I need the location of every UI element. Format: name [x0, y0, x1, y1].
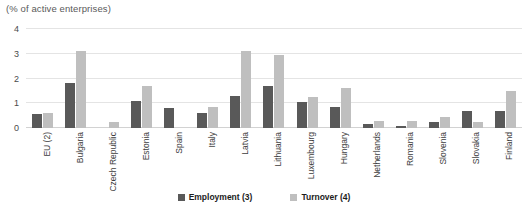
- x-axis-cell: Lithuania: [257, 130, 290, 188]
- bar-employment[interactable]: [396, 126, 406, 128]
- plot-area: [26, 29, 522, 128]
- y-axis-tick-label: 1: [14, 99, 19, 108]
- x-axis-tick-label: Bulgaria: [76, 132, 85, 163]
- y-axis-tick-label: 0: [14, 124, 19, 133]
- x-axis-tick-label: Lithuania: [274, 132, 283, 167]
- bar-group: [291, 29, 324, 128]
- bar-group: [125, 29, 158, 128]
- x-axis-cell: Czech Republic: [92, 130, 125, 188]
- x-axis-cell: Slovenia: [423, 130, 456, 188]
- legend-item[interactable]: Turnover (4): [290, 192, 350, 202]
- bar-group: [224, 29, 257, 128]
- x-axis: EU (2)BulgariaCzech RepublicEstoniaSpain…: [26, 130, 522, 188]
- bar-employment[interactable]: [32, 114, 42, 128]
- legend-swatch-icon: [290, 194, 297, 201]
- legend-item[interactable]: Employment (3): [178, 192, 253, 202]
- y-axis-tick-label: 3: [14, 49, 19, 58]
- bar-group: [456, 29, 489, 128]
- bar-turnover[interactable]: [208, 107, 218, 128]
- x-axis-tick-label: Latvia: [241, 132, 250, 155]
- bar-turnover[interactable]: [506, 91, 516, 128]
- x-axis-tick-label: Estonia: [142, 132, 151, 160]
- bar-employment[interactable]: [197, 113, 207, 128]
- chart-legend: Employment (3)Turnover (4): [0, 192, 528, 202]
- bars-layer: [26, 29, 522, 128]
- bar-turnover[interactable]: [341, 88, 351, 128]
- x-axis-tick-label: Spain: [175, 132, 184, 154]
- bar-employment[interactable]: [495, 111, 505, 128]
- bar-turnover[interactable]: [374, 121, 384, 128]
- bar-group: [423, 29, 456, 128]
- bar-turnover[interactable]: [76, 51, 86, 128]
- chart-container: (% of active enterprises) 01234 EU (2)Bu…: [0, 0, 528, 216]
- x-axis-cell: EU (2): [26, 130, 59, 188]
- x-axis-cell: Latvia: [224, 130, 257, 188]
- x-axis-cell: Netherlands: [357, 130, 390, 188]
- x-axis-tick-label: Romania: [406, 132, 415, 166]
- bar-turnover[interactable]: [142, 86, 152, 128]
- x-axis-tick-label: Slovakia: [472, 132, 481, 164]
- bar-turnover[interactable]: [308, 97, 318, 128]
- bar-employment[interactable]: [230, 96, 240, 128]
- bar-turnover[interactable]: [109, 122, 119, 128]
- legend-item-label: Employment (3): [189, 192, 253, 202]
- bar-group: [158, 29, 191, 128]
- x-axis-cell: Estonia: [125, 130, 158, 188]
- bar-group: [26, 29, 59, 128]
- bar-employment[interactable]: [263, 86, 273, 128]
- bar-employment[interactable]: [330, 107, 340, 128]
- bar-turnover[interactable]: [43, 113, 53, 128]
- bar-turnover[interactable]: [473, 122, 483, 128]
- x-axis-tick-label: Luxembourg: [307, 132, 316, 179]
- x-axis-cell: Luxembourg: [291, 130, 324, 188]
- y-axis-tick-label: 4: [14, 25, 19, 34]
- x-axis-tick-label: Italy: [208, 132, 217, 148]
- x-axis-tick-label: EU (2): [43, 132, 52, 157]
- x-axis-cell: Finland: [489, 130, 522, 188]
- bar-group: [191, 29, 224, 128]
- bar-turnover[interactable]: [241, 51, 251, 128]
- bar-group: [92, 29, 125, 128]
- x-axis-cell: Slovakia: [456, 130, 489, 188]
- bar-employment[interactable]: [65, 83, 75, 128]
- x-axis-cell: Hungary: [324, 130, 357, 188]
- legend-item-label: Turnover (4): [301, 192, 350, 202]
- bar-group: [357, 29, 390, 128]
- bar-group: [257, 29, 290, 128]
- y-axis: 01234: [0, 29, 24, 128]
- bar-employment[interactable]: [131, 101, 141, 128]
- x-axis-tick-label: Czech Republic: [109, 132, 118, 192]
- bar-employment[interactable]: [462, 111, 472, 128]
- x-axis-cell: Bulgaria: [59, 130, 92, 188]
- y-axis-tick-label: 2: [14, 74, 19, 83]
- x-axis-cell: Spain: [158, 130, 191, 188]
- bar-employment[interactable]: [363, 124, 373, 128]
- bar-employment[interactable]: [297, 102, 307, 128]
- x-axis-cell: Romania: [390, 130, 423, 188]
- x-axis-tick-label: Hungary: [340, 132, 349, 164]
- x-axis-tick-label: Finland: [505, 132, 514, 160]
- bar-group: [59, 29, 92, 128]
- bar-employment[interactable]: [429, 122, 439, 128]
- bar-group: [324, 29, 357, 128]
- bar-turnover[interactable]: [440, 117, 450, 128]
- bar-turnover[interactable]: [274, 55, 284, 128]
- bar-group: [489, 29, 522, 128]
- bar-group: [390, 29, 423, 128]
- legend-swatch-icon: [178, 194, 185, 201]
- x-axis-cell: Italy: [191, 130, 224, 188]
- bar-employment[interactable]: [164, 108, 174, 128]
- x-axis-tick-label: Netherlands: [373, 132, 382, 178]
- x-axis-tick-label: Slovenia: [439, 132, 448, 165]
- bar-turnover[interactable]: [407, 121, 417, 128]
- chart-subtitle: (% of active enterprises): [6, 3, 111, 14]
